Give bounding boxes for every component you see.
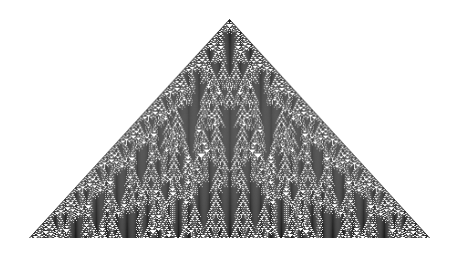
cellular-automaton-figure — [0, 0, 457, 257]
